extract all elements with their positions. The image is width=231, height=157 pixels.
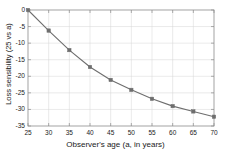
y-axis-title-wrap: Loss sensibility (25 vs a) <box>4 4 16 124</box>
data-point-marker <box>109 78 112 81</box>
x-tick-label: 40 <box>80 129 100 136</box>
data-point-marker <box>26 8 29 11</box>
y-axis-title: Loss sensibility (25 vs a) <box>4 4 13 124</box>
x-tick-label: 65 <box>183 129 203 136</box>
x-tick-label: 70 <box>204 129 224 136</box>
x-tick-label: 55 <box>142 129 162 136</box>
data-point-marker <box>192 110 195 113</box>
x-tick-label: 45 <box>101 129 121 136</box>
chart-screenshot: 25303540455055606570 0-5-10-15-20-25-30-… <box>0 0 231 157</box>
data-point-marker <box>171 104 174 107</box>
data-point-marker <box>47 29 50 32</box>
data-point-marker <box>68 48 71 51</box>
data-point-marker <box>88 65 91 68</box>
x-tick-label: 25 <box>18 129 38 136</box>
data-point-marker <box>130 88 133 91</box>
data-point-marker <box>212 115 215 118</box>
x-tick-label: 30 <box>39 129 59 136</box>
x-axis-title: Observer's age (a, in years) <box>0 140 231 149</box>
x-tick-label: 50 <box>121 129 141 136</box>
data-point-marker <box>150 97 153 100</box>
x-tick-label: 35 <box>59 129 79 136</box>
x-tick-label: 60 <box>163 129 183 136</box>
